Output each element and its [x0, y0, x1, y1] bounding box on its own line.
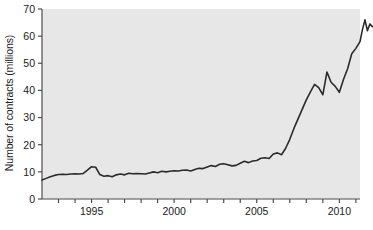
chart-figure: Number of contracts (millions) 010203040…: [0, 0, 373, 230]
y-tick-label: 60: [23, 30, 35, 42]
x-tick-label: 1995: [80, 205, 104, 217]
y-tick-label: 0: [29, 193, 35, 205]
line-chart-svg: 010203040506070 1995200020052010: [0, 0, 373, 230]
y-tick-label: 40: [23, 84, 35, 96]
y-axis-tick-labels: 010203040506070: [23, 3, 35, 205]
x-axis-ticks: [59, 199, 356, 203]
plot-area-container: 010203040506070 1995200020052010: [0, 0, 373, 230]
y-tick-label: 30: [23, 111, 35, 123]
y-tick-label: 10: [23, 166, 35, 178]
x-tick-label: 2005: [245, 205, 269, 217]
plot-background: [42, 9, 360, 199]
x-tick-label: 2010: [328, 205, 352, 217]
y-tick-label: 20: [23, 139, 35, 151]
x-axis-tick-labels: 1995200020052010: [80, 205, 351, 217]
x-tick-label: 2000: [162, 205, 186, 217]
y-tick-label: 70: [23, 3, 35, 15]
y-tick-label: 50: [23, 57, 35, 69]
